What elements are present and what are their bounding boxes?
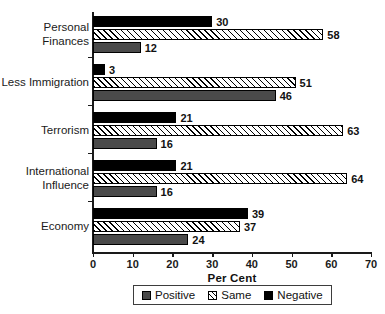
bar-value-label: 16 <box>161 187 173 198</box>
bar-negative <box>93 160 176 171</box>
bar-value-label: 3 <box>109 65 115 76</box>
legend-item-same[interactable]: Same <box>208 289 251 301</box>
bar-value-label: 21 <box>180 161 192 172</box>
legend-item-negative[interactable]: Negative <box>264 289 322 301</box>
x-axis-tick <box>292 252 293 257</box>
bar-same <box>93 29 323 40</box>
bar-positive <box>93 186 157 197</box>
bar-positive <box>93 42 141 53</box>
y-axis-tick <box>88 105 93 106</box>
legend-swatch-positive-icon <box>142 291 151 300</box>
bar-positive <box>93 90 276 101</box>
bar-value-label: 21 <box>180 113 192 124</box>
x-axis-tick-label: 20 <box>166 258 178 270</box>
bar-negative <box>93 208 248 219</box>
category-label-economy: Economy <box>41 220 89 234</box>
x-axis-tick <box>133 252 134 257</box>
bar-value-label: 64 <box>351 174 363 185</box>
bar-positive <box>93 234 188 245</box>
x-axis-tick-label: 70 <box>365 258 377 270</box>
legend-label: Negative <box>277 289 322 301</box>
bar-value-label: 30 <box>216 17 228 28</box>
legend-label: Positive <box>155 289 195 301</box>
x-axis-title: Per Cent <box>93 272 371 284</box>
bar-value-label: 24 <box>192 235 204 246</box>
x-axis-tick-label: 50 <box>285 258 297 270</box>
plot-area: 30581235146216316216416393724 <box>93 12 371 252</box>
legend-swatch-same-icon <box>208 291 217 300</box>
bar-negative <box>93 64 105 75</box>
x-axis-tick-label: 10 <box>127 258 139 270</box>
bar-value-label: 12 <box>145 43 157 54</box>
bar-same <box>93 77 296 88</box>
legend-label: Same <box>221 289 251 301</box>
y-axis-tick <box>88 153 93 154</box>
bar-value-label: 63 <box>347 126 359 137</box>
chart-legend: PositiveSameNegative <box>133 285 332 305</box>
x-axis-tick <box>212 252 213 257</box>
bar-same <box>93 221 240 232</box>
x-axis-tick-label: 60 <box>325 258 337 270</box>
x-axis-tick <box>93 252 94 257</box>
bar-same <box>93 173 347 184</box>
bar-chart: 30581235146216316216416393724 0102030405… <box>0 0 385 314</box>
bar-value-label: 16 <box>161 139 173 150</box>
legend-swatch-negative-icon <box>264 291 273 300</box>
x-axis-tick-label: 30 <box>206 258 218 270</box>
category-label-less-immigration: Less Immigration <box>1 76 89 90</box>
bar-value-label: 37 <box>244 222 256 233</box>
x-axis-tick <box>331 252 332 257</box>
x-axis-tick-label: 40 <box>246 258 258 270</box>
x-axis-tick <box>172 252 173 257</box>
bar-same <box>93 125 343 136</box>
x-axis-tick <box>252 252 253 257</box>
bar-value-label: 58 <box>327 30 339 41</box>
y-axis-tick <box>88 57 93 58</box>
x-axis-tick-label: 0 <box>90 258 96 270</box>
bar-positive <box>93 138 157 149</box>
y-axis-tick <box>88 201 93 202</box>
category-label-personal-finances: Personal Finances <box>42 21 89 48</box>
bar-negative <box>93 112 176 123</box>
category-label-international-influence: International Influence <box>26 165 89 192</box>
bar-negative <box>93 16 212 27</box>
x-axis-tick <box>371 252 372 257</box>
category-label-terrorism: Terrorism <box>41 124 89 138</box>
bar-value-label: 46 <box>280 91 292 102</box>
bar-value-label: 39 <box>252 209 264 220</box>
bar-value-label: 51 <box>300 78 312 89</box>
legend-item-positive[interactable]: Positive <box>142 289 195 301</box>
